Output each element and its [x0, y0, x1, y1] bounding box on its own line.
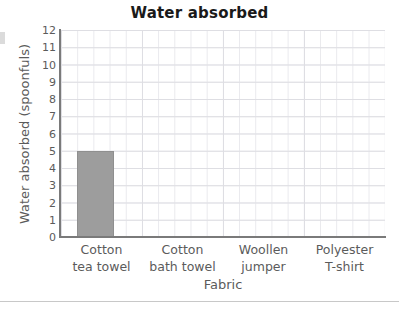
x-tick-label-line: T-shirt [316, 258, 374, 275]
y-tick-label: 5 [49, 144, 56, 157]
x-tick-label-line: Cotton [72, 241, 130, 258]
x-axis-tick-labels: Cottontea towelCottonbath towelWoollenju… [61, 241, 385, 277]
x-tick-label-line: Cotton [149, 241, 215, 258]
x-tick-label: Woollenjumper [239, 241, 288, 275]
y-tick-label: 4 [49, 162, 56, 175]
x-tick-label-line: tea towel [72, 258, 130, 275]
page-bottom-rule [0, 301, 399, 302]
x-tick-label: Cottonbath towel [149, 241, 215, 275]
x-tick-label-line: Woollen [239, 241, 288, 258]
y-tick-label: 1 [49, 213, 56, 226]
y-tick-label: 11 [42, 41, 56, 54]
plot-area [61, 30, 385, 237]
x-tick-label: PolyesterT-shirt [316, 241, 374, 275]
x-axis-line [59, 236, 386, 238]
y-tick-label: 0 [49, 231, 56, 244]
x-axis-title: Fabric [61, 277, 385, 292]
y-tick-label: 12 [42, 24, 56, 37]
y-tick-label: 9 [49, 75, 56, 88]
y-axis-title: Water absorbed (spoonfuls) [14, 28, 34, 240]
plot-major-grid [61, 30, 385, 237]
chart-page: Water absorbed Water absorbed (spoonfuls… [0, 0, 399, 312]
y-axis-title-text: Water absorbed (spoonfuls) [17, 44, 32, 224]
x-tick-label: Cottontea towel [72, 241, 130, 275]
y-tick-label: 7 [49, 110, 56, 123]
y-tick-label: 3 [49, 179, 56, 192]
y-tick-label: 10 [42, 58, 56, 71]
y-axis-line [59, 29, 61, 238]
y-tick-label: 8 [49, 93, 56, 106]
x-tick-label-line: jumper [239, 258, 288, 275]
chart-title: Water absorbed [0, 4, 399, 22]
page-edge-artifact [0, 32, 5, 44]
y-tick-label: 2 [49, 196, 56, 209]
x-tick-label-line: Polyester [316, 241, 374, 258]
y-tick-label: 6 [49, 127, 56, 140]
x-tick-label-line: bath towel [149, 258, 215, 275]
y-axis-tick-labels: 0123456789101112 [36, 30, 56, 237]
